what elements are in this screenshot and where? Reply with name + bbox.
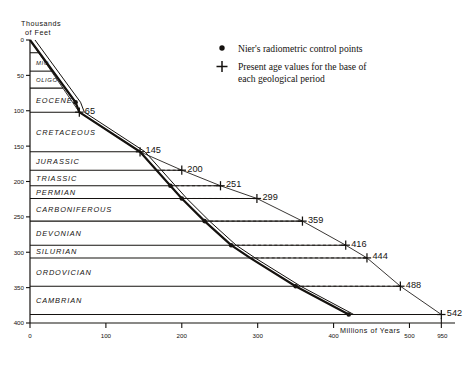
stratum-label: OLIGO (36, 77, 58, 83)
age-value-label: 444 (372, 251, 387, 261)
y-axis-tick-label: 250 (14, 213, 25, 220)
y-axis-title-line2: of Feet (25, 28, 51, 37)
y-axis-tick-label: 400 (14, 319, 25, 326)
x-axis-tick-label: 0 (28, 332, 32, 339)
x-axis-tick-label-extra: 950 (437, 332, 448, 339)
age-value-marker: 359 (298, 215, 323, 226)
chart-canvas: Thousands of Feet MIOOLIGOEOCENECRETACEO… (0, 0, 472, 365)
stratum-band: PERMIAN (30, 188, 257, 199)
x-axis-tick-label: 300 (253, 332, 264, 339)
stratum-band: CRETACEOUS (30, 128, 140, 152)
age-value-marker: 488 (396, 280, 421, 291)
nier-control-point-marker (73, 100, 78, 105)
legend-item-1-label: Nier's radiometric control points (238, 43, 363, 54)
stratum-band: DEVONIAN (30, 229, 346, 245)
chart-legend: Nier's radiometric control points Presen… (217, 43, 368, 84)
age-value-label: 200 (187, 164, 202, 174)
age-value-marker: 299 (253, 192, 278, 203)
age-value-marker: 200 (178, 164, 203, 175)
y-axis: 050100150200250300350400 (14, 36, 30, 326)
stratum-band: SILURIAN (30, 247, 367, 258)
nier-control-point-marker (179, 196, 184, 201)
nier-control-point-marker (229, 243, 234, 248)
stratum-band: CAMBRIAN (30, 296, 441, 315)
legend-plus-icon (217, 61, 228, 72)
x-axis-tick-label: 100 (101, 332, 112, 339)
y-axis-title-line1: Thousands (21, 19, 61, 28)
y-axis-tick-label: 150 (14, 143, 25, 150)
age-value-marker: 416 (342, 239, 367, 250)
nier-control-point-marker (346, 312, 351, 317)
age-value-marker: 145 (136, 145, 161, 156)
x-axis-tick-label: 500 (404, 332, 415, 339)
nier-control-point-marker (168, 183, 173, 188)
stratum-band: TRIASSIC (30, 174, 220, 186)
stratum-label: CAMBRIAN (36, 296, 82, 305)
y-axis-tick-label: 100 (14, 107, 25, 114)
stratum-label: EOCENE (36, 96, 73, 105)
stratum-label: TRIASSIC (36, 174, 77, 183)
stratum-label: PERMIAN (36, 188, 76, 197)
stratum-label: JURASSIC (35, 157, 80, 166)
y-axis-tick-label: 350 (14, 284, 25, 291)
stratum-band: ORDOVICIAN (30, 268, 400, 287)
stratum-label: ORDOVICIAN (36, 268, 92, 277)
age-value-label: 359 (308, 215, 323, 225)
legend-item-2-line1: Present age values for the base of (238, 61, 367, 72)
legend-item-2-line2: each geological period (238, 73, 325, 84)
age-value-label: 65 (85, 106, 95, 116)
age-value-label: 145 (146, 145, 161, 155)
age-value-label: 251 (226, 179, 241, 189)
stratum-band: CARBONIFEROUS (30, 205, 302, 221)
age-value-marker: 444 (363, 251, 388, 262)
y-axis-tick-label: 50 (17, 72, 24, 79)
age-value-label: 488 (406, 280, 421, 290)
age-value-label: 542 (447, 308, 462, 318)
nier-control-point-marker (202, 219, 207, 224)
stratum-label: SILURIAN (36, 247, 77, 256)
age-value-label: 416 (351, 239, 366, 249)
y-axis-tick-label: 200 (14, 178, 25, 185)
legend-dot-icon (219, 45, 224, 50)
stratum-label: DEVONIAN (36, 229, 82, 238)
connector-lines (156, 170, 441, 314)
stratum-label: CARBONIFEROUS (36, 205, 112, 214)
data-point-labels: 65145200251299359416444488542 (75, 106, 462, 319)
age-value-marker: 251 (216, 179, 241, 190)
nier-control-point-marker (293, 284, 298, 289)
x-axis-tick-label: 400 (328, 332, 339, 339)
x-axis-title: Millions of Years (340, 326, 400, 335)
x-axis-tick-label: 200 (177, 332, 188, 339)
geological-timescale-chart: Thousands of Feet MIOOLIGOEOCENECRETACEO… (0, 0, 472, 365)
stratum-label: CRETACEOUS (36, 128, 96, 137)
y-axis-tick-label: 300 (14, 249, 25, 256)
y-axis-tick-label: 0 (21, 36, 25, 43)
age-value-label: 299 (262, 192, 277, 202)
age-value-marker: 542 (437, 308, 462, 319)
